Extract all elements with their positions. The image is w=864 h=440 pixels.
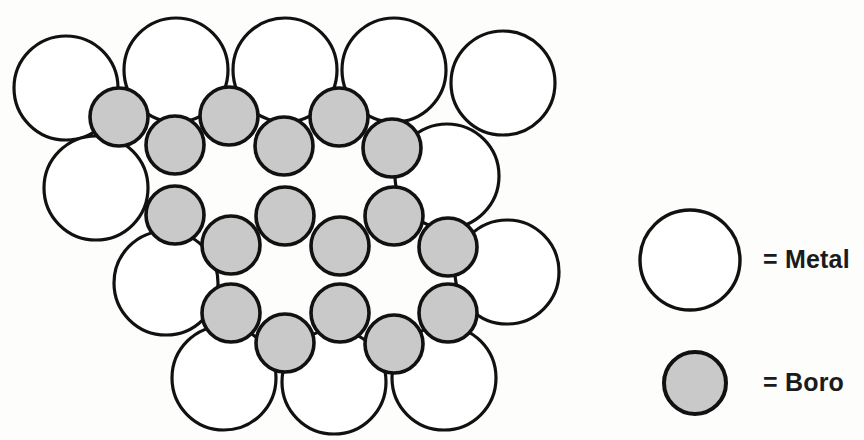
legend-label-boro: = Boro — [763, 368, 844, 396]
legend-label-metal: = Metal — [763, 245, 850, 273]
structure-diagram: = Metal= Boro — [0, 0, 864, 440]
boro-r1-f — [363, 119, 421, 177]
boro-r2-e — [365, 187, 423, 245]
boro-r3-d — [365, 315, 423, 373]
figure-root: = Metal= Boro — [0, 0, 864, 440]
boro-r1-e — [310, 88, 368, 146]
boro-r2-c — [256, 187, 314, 245]
boro-r3-a — [202, 284, 260, 342]
boro-r2-a — [146, 186, 204, 244]
boro-r1-d — [255, 117, 313, 175]
boro-r1-b — [146, 116, 204, 174]
boro-r2-f — [419, 218, 477, 276]
boro-r2-b — [202, 216, 260, 274]
boro-r3-c — [311, 284, 369, 342]
boro-r3-e — [419, 284, 477, 342]
metal-top-5 — [451, 31, 555, 135]
boro-r3-b — [256, 314, 314, 372]
metal-left-1 — [44, 136, 148, 240]
boro-r1-a — [90, 88, 148, 146]
legend-swatch-metal-icon — [640, 210, 740, 310]
boro-r2-d — [311, 217, 369, 275]
legend-swatch-boro-icon — [664, 352, 726, 414]
boro-r1-c — [200, 87, 258, 145]
